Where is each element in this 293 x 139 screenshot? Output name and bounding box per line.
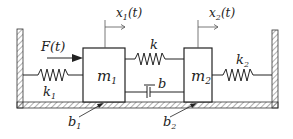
x1-label: x1(t) (116, 6, 142, 22)
floor (17, 102, 278, 108)
spring-k: k (125, 37, 184, 65)
b-label: b (158, 76, 166, 91)
k1-label: k1 (43, 84, 56, 101)
mass-m2: m2 (184, 48, 212, 102)
displacement-x2: x2(t) (198, 6, 235, 48)
k-label: k (150, 37, 158, 52)
mass-m1: m1 (83, 48, 125, 102)
right-wall (272, 30, 278, 108)
x2-label: x2(t) (209, 6, 235, 22)
force-arrow: F(t) (40, 39, 83, 62)
spring-k2: k2 (212, 52, 272, 81)
mechanical-system-diagram: m1 m2 k1 k b k2 F(t) x1(t) (0, 0, 293, 139)
displacement-x1: x1(t) (105, 6, 142, 48)
spring-k1: k1 (23, 69, 83, 101)
damper-b: b (125, 76, 184, 98)
left-wall (17, 29, 23, 108)
b2-label: b2 (163, 114, 176, 131)
force-label: F(t) (40, 39, 65, 54)
k2-label: k2 (236, 52, 249, 69)
